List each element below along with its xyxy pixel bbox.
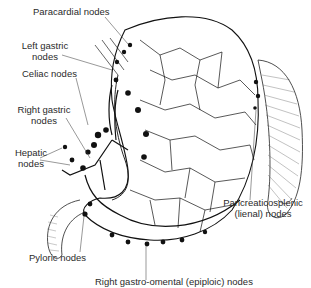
duodenum-shape xyxy=(47,200,85,258)
label-right-gastric-nodes: Right gastric nodes xyxy=(14,104,74,126)
label-pancreaticosplenic-nodes: Pancreaticosplenic (lienal) nodes xyxy=(215,197,311,219)
label-pancreaticosplenic-line2: (lienal) nodes xyxy=(215,208,311,219)
stomach-lymph-nodes-diagram: Paracardial nodes Left gastric nodes Cel… xyxy=(0,0,311,288)
label-celiac-nodes: Celiac nodes xyxy=(22,68,77,79)
label-left-gastric-line1: Left gastric xyxy=(20,40,70,51)
label-leader-lines xyxy=(40,17,256,280)
label-hepatic-line2: nodes xyxy=(14,158,48,169)
label-right-gastric-line1: Right gastric xyxy=(14,104,74,115)
label-left-gastric-nodes: Left gastric nodes xyxy=(20,40,70,62)
label-right-gastric-line2: nodes xyxy=(14,115,74,126)
label-pyloric-nodes: Pyloric nodes xyxy=(29,252,86,263)
label-right-gastro-omental-nodes: Right gastro-omental (epiploic) nodes xyxy=(95,276,253,287)
label-pancreaticosplenic-line1: Pancreaticosplenic xyxy=(215,197,311,208)
label-hepatic-line1: Hepatic xyxy=(14,147,48,158)
label-paracardial-nodes: Paracardial nodes xyxy=(33,6,110,17)
esophagus-shape xyxy=(95,38,128,75)
spleen-shape xyxy=(258,60,302,218)
label-hepatic-nodes: Hepatic nodes xyxy=(14,147,48,169)
label-left-gastric-line2: nodes xyxy=(20,51,70,62)
